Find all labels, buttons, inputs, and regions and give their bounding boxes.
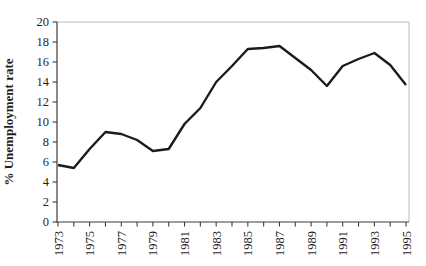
unemployment-rate-line-chart: 02468101214161820 1973197519771979198119… — [0, 0, 426, 266]
x-tick-label: 1975 — [83, 231, 97, 256]
y-tick-label: 16 — [37, 55, 50, 69]
x-tick-label: 1991 — [336, 231, 350, 256]
y-tick-label: 8 — [43, 135, 49, 149]
x-axis: 1973197519771979198119831985198719891991… — [52, 222, 414, 256]
x-tick-label: 1977 — [115, 231, 129, 256]
x-tick-label: 1993 — [368, 231, 382, 256]
y-tick-label: 18 — [37, 35, 50, 49]
y-tick-label: 2 — [43, 195, 49, 209]
y-tick-label: 0 — [43, 215, 49, 229]
plot-frame — [57, 22, 409, 222]
x-tick-label: 1983 — [210, 231, 224, 256]
y-tick-label: 4 — [43, 175, 50, 189]
unemployment-rate-series-line — [58, 46, 406, 168]
unemployment-chart-figure: 02468101214161820 1973197519771979198119… — [0, 0, 426, 266]
data-series — [58, 46, 406, 168]
x-tick-label: 1979 — [146, 231, 160, 256]
x-tick-label: 1995 — [400, 231, 414, 256]
y-tick-label: 20 — [37, 15, 50, 29]
y-axis-title: % Unemployment rate — [1, 58, 16, 185]
x-tick-label: 1985 — [241, 231, 255, 256]
x-tick-label: 1973 — [52, 231, 66, 256]
y-tick-label: 6 — [43, 155, 49, 169]
y-tick-label: 12 — [37, 95, 50, 109]
x-tick-label: 1989 — [305, 231, 319, 256]
y-tick-label: 14 — [37, 75, 50, 89]
x-tick-label: 1987 — [273, 231, 287, 256]
y-axis: 02468101214161820 — [37, 15, 58, 229]
y-tick-label: 10 — [37, 115, 50, 129]
x-tick-label: 1981 — [178, 231, 192, 256]
